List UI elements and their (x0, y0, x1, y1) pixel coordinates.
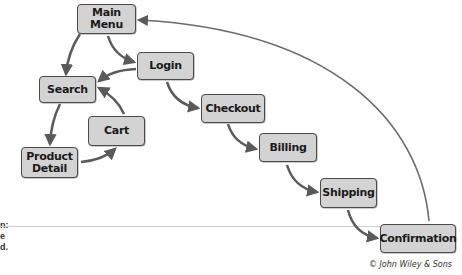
node-login: Login (137, 52, 194, 80)
arrow-shipping-confirmation (348, 210, 377, 238)
node-confirmation: Confirmation (380, 224, 456, 253)
arrow-login-checkout (167, 82, 198, 108)
node-search-label: Search (47, 84, 88, 96)
node-main-menu-line2: Menu (90, 18, 123, 31)
node-billing-label: Billing (269, 142, 306, 154)
arrow-checkout-billing (228, 124, 256, 149)
node-shipping-label: Shipping (322, 187, 374, 199)
node-shipping: Shipping (320, 178, 377, 208)
arrow-login-search (99, 69, 136, 81)
node-main-menu: MainMenu (77, 4, 136, 34)
node-confirmation-label: Confirmation (379, 233, 456, 245)
copyright-credit: © John Wiley & Sons (369, 260, 452, 269)
node-cart-label: Cart (104, 125, 129, 137)
arrow-productdetail-cart (81, 149, 115, 162)
arrow-mainmenu-login (108, 36, 134, 62)
arrow-search-productdetail (50, 104, 60, 144)
node-cart: Cart (88, 116, 145, 146)
arrow-billing-shipping (287, 165, 317, 192)
node-search: Search (39, 76, 96, 103)
arrow-cart-search (99, 88, 124, 114)
node-product-detail: ProductDetail (21, 147, 78, 178)
node-product-detail-line2: Detail (32, 162, 67, 175)
arrow-confirmation-mainmenu (139, 20, 429, 221)
node-login-label: Login (149, 60, 182, 72)
node-checkout: Checkout (201, 94, 265, 123)
node-billing: Billing (259, 133, 317, 162)
node-checkout-label: Checkout (205, 103, 260, 115)
arrow-mainmenu-search (66, 34, 80, 74)
